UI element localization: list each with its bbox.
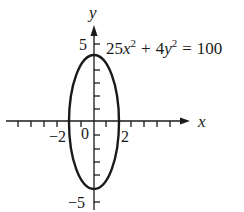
- x-tick-label-neg2: −2: [49, 128, 66, 145]
- origin-label: 0: [81, 125, 89, 142]
- x-axis: [6, 121, 184, 127]
- y-axis-arrow-icon: [91, 25, 98, 36]
- x-axis-arrow-icon: [180, 118, 190, 125]
- y-axis-label: y: [87, 3, 97, 22]
- y-tick-label-5: 5: [79, 36, 87, 53]
- y-axis: [94, 34, 100, 210]
- x-axis-label: x: [197, 112, 206, 131]
- x-tick-label-2: 2: [121, 128, 129, 145]
- equation-label: 25x2+4y2=100: [106, 37, 222, 58]
- y-tick-label-neg5: −5: [68, 194, 85, 211]
- ellipse-graph: y x 5 −5 −2 2 0 25x2+4y2=100: [0, 0, 244, 212]
